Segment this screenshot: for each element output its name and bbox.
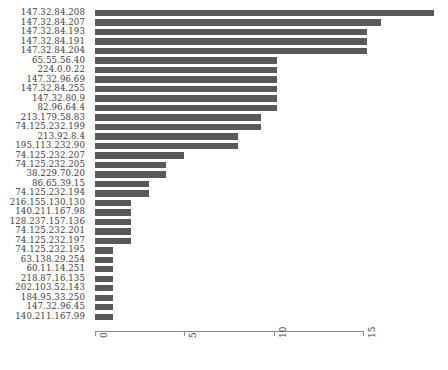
bar-row bbox=[95, 217, 448, 226]
bar bbox=[95, 76, 277, 82]
y-axis-label-text: 74.125.232.195 bbox=[15, 245, 85, 254]
bar-row bbox=[95, 46, 448, 55]
y-axis-label: 140.211.167.99 bbox=[0, 312, 89, 321]
bar bbox=[95, 143, 238, 149]
x-axis-tick-label: 10 bbox=[278, 327, 288, 338]
bar-row bbox=[95, 112, 448, 121]
y-axis-label: 147.32.84.204 bbox=[0, 46, 89, 55]
bar bbox=[95, 314, 113, 320]
bar-chart: 147.32.84.208147.32.84.207147.32.84.1931… bbox=[0, 0, 448, 370]
bar bbox=[95, 266, 113, 272]
bar-row bbox=[95, 103, 448, 112]
y-axis-label-text: 224.0.0.22 bbox=[38, 65, 85, 74]
bar bbox=[95, 105, 277, 111]
bar bbox=[95, 67, 277, 73]
bar bbox=[95, 171, 166, 177]
y-axis-label-text: 195.113.232.90 bbox=[15, 141, 85, 150]
bar-row bbox=[95, 122, 448, 131]
y-axis-label: 147.32.84.255 bbox=[0, 84, 89, 93]
bar-row bbox=[95, 27, 448, 36]
bar-row bbox=[95, 160, 448, 169]
bar bbox=[95, 162, 166, 168]
bar bbox=[95, 38, 367, 44]
bar-row bbox=[95, 198, 448, 207]
bar bbox=[95, 124, 261, 130]
x-axis-tick bbox=[363, 331, 364, 336]
bar bbox=[95, 276, 113, 282]
bar-row bbox=[95, 226, 448, 235]
y-axis-label-text: 147.32.84.204 bbox=[21, 46, 85, 55]
y-axis-label-text: 147.32.84.208 bbox=[21, 8, 85, 17]
bar bbox=[95, 29, 367, 35]
bar-row bbox=[95, 169, 448, 178]
y-axis-label-text: 60.11.14.251 bbox=[26, 264, 85, 273]
bar bbox=[95, 95, 277, 101]
bar-row bbox=[95, 36, 448, 45]
y-axis-label: 224.0.0.22 bbox=[0, 65, 89, 74]
bar-row bbox=[95, 245, 448, 254]
bar-row bbox=[95, 302, 448, 311]
bar-row bbox=[95, 264, 448, 273]
bar-row bbox=[95, 141, 448, 150]
y-axis-label-text: 140.211.167.99 bbox=[15, 312, 85, 321]
y-axis-label: 82.96.64.4 bbox=[0, 103, 89, 112]
bar bbox=[95, 181, 149, 187]
bar-row bbox=[95, 283, 448, 292]
bar bbox=[95, 228, 131, 234]
bar-row bbox=[95, 65, 448, 74]
bar-row bbox=[95, 179, 448, 188]
x-axis-tick-label: 15 bbox=[367, 327, 377, 338]
bar bbox=[95, 190, 149, 196]
bar bbox=[95, 304, 113, 310]
y-axis-label-text: 74.125.232.199 bbox=[15, 122, 85, 131]
bar-row bbox=[95, 188, 448, 197]
y-axis-category-labels: 147.32.84.208147.32.84.207147.32.84.1931… bbox=[0, 8, 89, 321]
bar bbox=[95, 257, 113, 263]
bar-row bbox=[95, 93, 448, 102]
bar-row bbox=[95, 293, 448, 302]
y-axis-label-text: 147.32.84.193 bbox=[21, 27, 85, 36]
y-axis-label-text: 147.32.84.255 bbox=[21, 84, 85, 93]
bar bbox=[95, 114, 261, 120]
bar bbox=[95, 247, 113, 253]
bar bbox=[95, 10, 434, 16]
bar bbox=[95, 57, 277, 63]
bar bbox=[95, 219, 131, 225]
x-axis-tick-label: 0 bbox=[99, 332, 109, 338]
bar-row bbox=[95, 236, 448, 245]
x-axis-line bbox=[95, 331, 363, 332]
bar-row bbox=[95, 55, 448, 64]
bar bbox=[95, 152, 184, 158]
plot-area bbox=[95, 8, 448, 321]
bar-row bbox=[95, 131, 448, 140]
bar bbox=[95, 285, 113, 291]
bar bbox=[95, 86, 277, 92]
y-axis-label: 195.113.232.90 bbox=[0, 141, 89, 150]
bar-row bbox=[95, 8, 448, 17]
bar bbox=[95, 209, 131, 215]
bar-row bbox=[95, 150, 448, 159]
bar bbox=[95, 200, 131, 206]
x-axis-tick bbox=[184, 331, 185, 336]
bar bbox=[95, 133, 238, 139]
bar bbox=[95, 238, 131, 244]
bar-row bbox=[95, 312, 448, 321]
y-axis-label-text: 202.103.52.143 bbox=[15, 283, 85, 292]
x-axis-tick bbox=[95, 331, 96, 336]
x-axis-tick-label: 5 bbox=[188, 332, 198, 338]
y-axis-label: 74.125.232.199 bbox=[0, 122, 89, 131]
x-axis-tick bbox=[274, 331, 275, 336]
y-axis-label-text: 82.96.64.4 bbox=[38, 103, 85, 112]
bar-row bbox=[95, 17, 448, 26]
bar-row bbox=[95, 84, 448, 93]
bar-row bbox=[95, 255, 448, 264]
bar-row bbox=[95, 274, 448, 283]
bar bbox=[95, 19, 381, 25]
bar bbox=[95, 48, 367, 54]
bar bbox=[95, 295, 113, 301]
bar-row bbox=[95, 74, 448, 83]
bar-row bbox=[95, 207, 448, 216]
y-axis-label-text: 147.32.96.45 bbox=[26, 302, 85, 311]
